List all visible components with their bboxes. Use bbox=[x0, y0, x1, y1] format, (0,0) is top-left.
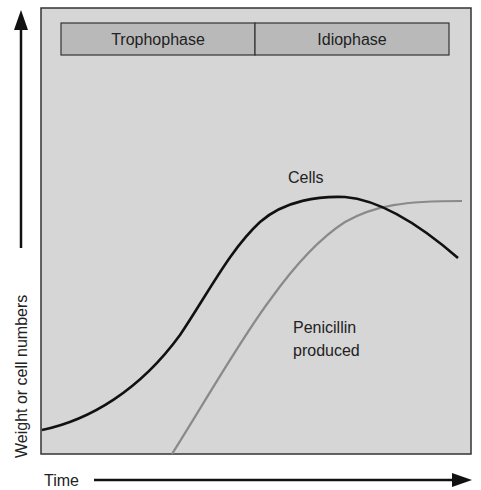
penicillin-growth-chart: Trophophase Idiophase Cells Penicillin p… bbox=[0, 0, 481, 490]
x-axis-arrow-icon bbox=[452, 473, 472, 487]
phase-trophophase-label: Trophophase bbox=[111, 31, 205, 48]
cells-label: Cells bbox=[288, 169, 324, 186]
y-axis: Weight or cell numbers bbox=[13, 10, 30, 458]
plot-area bbox=[41, 8, 471, 454]
penicillin-label-line1: Penicillin bbox=[293, 319, 356, 336]
phase-idiophase-label: Idiophase bbox=[317, 31, 386, 48]
x-axis: Time bbox=[44, 472, 472, 489]
y-axis-label: Weight or cell numbers bbox=[13, 295, 30, 458]
penicillin-label-line2: produced bbox=[293, 342, 360, 359]
y-axis-arrow-icon bbox=[14, 10, 28, 30]
phase-bar: Trophophase Idiophase bbox=[61, 23, 449, 55]
x-axis-label: Time bbox=[44, 472, 79, 489]
